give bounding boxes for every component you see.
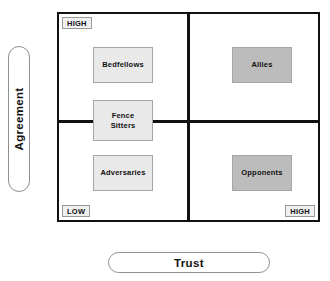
vertical-divider [187,14,190,220]
x-axis-label: Trust [174,257,204,269]
trust-high-label: HIGH [285,205,315,217]
quadrant-box-opponents: Opponents [232,155,292,191]
quadrant-box-allies: Allies [232,47,292,83]
agreement-trust-matrix: HIGH LOW HIGH Bedfellows Fence Sitters A… [57,12,320,222]
quadrant-box-adversaries: Adversaries [93,155,153,191]
trust-low-label: LOW [62,205,90,217]
agreement-high-label: HIGH [62,17,92,29]
quadrant-box-fence-sitters: Fence Sitters [93,100,153,141]
y-axis-label-capsule: Agreement [8,46,30,192]
x-axis-label-capsule: Trust [108,252,270,273]
y-axis-label: Agreement [13,88,25,151]
quadrant-box-bedfellows: Bedfellows [93,47,153,83]
